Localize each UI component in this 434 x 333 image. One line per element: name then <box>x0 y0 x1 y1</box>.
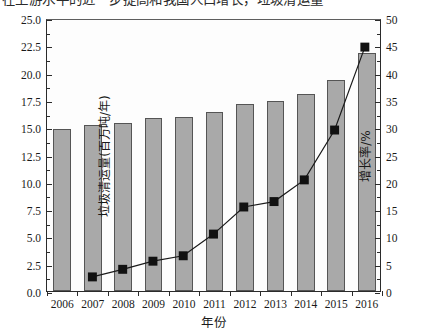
x-tick-mark <box>260 291 261 296</box>
x-tick-mark <box>47 291 48 296</box>
x-tick-label-2016: 2016 <box>355 298 378 310</box>
marker-2008 <box>118 265 127 274</box>
y-right-tick-mark <box>375 20 380 21</box>
y-left-tick-mark <box>47 20 52 21</box>
y-left-tick-mark <box>47 75 52 76</box>
y-right-tick-mark <box>375 75 380 76</box>
y-right-tick-label-30: 30 <box>380 123 426 135</box>
y-right-tick-label-40: 40 <box>380 69 426 81</box>
y-right-tick-mark <box>375 102 380 103</box>
y-right-minor-tick <box>377 88 380 89</box>
y-left-minor-tick <box>47 225 50 226</box>
y-left-tick-label-17.5: 17.5 <box>0 96 47 108</box>
y-right-minor-tick <box>377 61 380 62</box>
y-left-minor-tick <box>47 61 50 62</box>
x-tick-label-2012: 2012 <box>233 298 256 310</box>
x-tick-label-2006: 2006 <box>51 298 74 310</box>
y-right-tick-mark <box>375 238 380 239</box>
marker-2009 <box>148 257 157 266</box>
y-right-minor-tick <box>377 252 380 253</box>
y-left-tick-label-15.0: 15.0 <box>0 123 47 135</box>
x-tick-mark <box>352 291 353 296</box>
y-left-tick-mark <box>47 129 52 130</box>
y-left-tick-mark <box>47 184 52 185</box>
y-left-tick-mark <box>47 157 52 158</box>
x-tick-mark <box>77 291 78 296</box>
x-tick-mark <box>291 291 292 296</box>
y-right-minor-tick <box>377 225 380 226</box>
x-tick-mark <box>382 291 383 296</box>
x-tick-mark <box>199 291 200 296</box>
y-right-tick-mark <box>375 47 380 48</box>
y-left-minor-tick <box>47 252 50 253</box>
chart-figure: 垃圾清运量(百万吨/年) 增长率/% 0.02.55.07.510.012.51… <box>0 0 434 333</box>
y-right-minor-tick <box>377 143 380 144</box>
y-left-minor-tick <box>47 88 50 89</box>
y-axis-right-title: 增长率/% <box>356 130 373 181</box>
y-left-tick-mark <box>47 211 52 212</box>
y-right-tick-mark <box>375 184 380 185</box>
y-left-minor-tick <box>47 197 50 198</box>
y-left-tick-mark <box>47 266 52 267</box>
y-right-tick-mark <box>375 266 380 267</box>
x-tick-mark <box>169 291 170 296</box>
marker-2011 <box>209 230 218 239</box>
y-right-tick-label-35: 35 <box>380 96 426 108</box>
marker-2010 <box>179 251 188 260</box>
y-right-tick-mark <box>375 157 380 158</box>
y-right-minor-tick <box>377 116 380 117</box>
marker-2012 <box>239 203 248 212</box>
plot-area: 垃圾清运量(百万吨/年) 增长率/% 0.02.55.07.510.012.51… <box>46 19 381 292</box>
y-left-tick-mark <box>47 238 52 239</box>
y-right-tick-label-20: 20 <box>380 178 426 190</box>
x-tick-label-2015: 2015 <box>325 298 348 310</box>
y-left-tick-label-25.0: 25.0 <box>0 14 47 26</box>
y-left-tick-label-2.5: 2.5 <box>0 260 47 272</box>
y-right-minor-tick <box>377 170 380 171</box>
x-tick-label-2013: 2013 <box>264 298 287 310</box>
y-left-tick-label-7.5: 7.5 <box>0 205 47 217</box>
y-right-minor-tick <box>377 34 380 35</box>
y-right-tick-label-45: 45 <box>380 41 426 53</box>
y-right-tick-mark <box>375 211 380 212</box>
x-tick-label-2010: 2010 <box>173 298 196 310</box>
x-tick-label-2011: 2011 <box>203 298 226 310</box>
y-left-tick-mark <box>47 47 52 48</box>
x-tick-label-2014: 2014 <box>294 298 317 310</box>
y-right-tick-label-25: 25 <box>380 151 426 163</box>
y-left-minor-tick <box>47 34 50 35</box>
y-right-tick-label-50: 50 <box>380 14 426 26</box>
y-right-tick-label-0: 0 <box>380 287 426 299</box>
y-left-tick-label-5.0: 5.0 <box>0 232 47 244</box>
y-right-minor-tick <box>377 279 380 280</box>
marker-2014 <box>300 175 309 184</box>
marker-2015 <box>330 126 339 135</box>
x-tick-mark <box>230 291 231 296</box>
x-axis-title: 年份 <box>46 312 381 331</box>
x-tick-mark <box>108 291 109 296</box>
y-axis-left-title: 垃圾清运量(百万吨/年) <box>95 95 112 216</box>
y-left-minor-tick <box>47 143 50 144</box>
y-right-tick-label-10: 10 <box>380 232 426 244</box>
y-right-tick-label-5: 5 <box>380 260 426 272</box>
marker-2016 <box>360 43 369 52</box>
y-left-tick-label-22.5: 22.5 <box>0 41 47 53</box>
y-left-minor-tick <box>47 170 50 171</box>
y-left-minor-tick <box>47 279 50 280</box>
marker-2013 <box>270 197 279 206</box>
x-tick-label-2008: 2008 <box>112 298 135 310</box>
y-right-tick-mark <box>375 129 380 130</box>
x-tick-label-2007: 2007 <box>81 298 104 310</box>
y-left-minor-tick <box>47 116 50 117</box>
y-left-tick-label-12.5: 12.5 <box>0 151 47 163</box>
y-right-minor-tick <box>377 197 380 198</box>
x-tick-mark <box>138 291 139 296</box>
marker-2007 <box>88 272 97 281</box>
y-left-tick-label-0.0: 0.0 <box>0 287 47 299</box>
y-left-tick-label-10.0: 10.0 <box>0 178 47 190</box>
x-tick-mark <box>321 291 322 296</box>
x-tick-label-2009: 2009 <box>142 298 165 310</box>
y-left-tick-mark <box>47 102 52 103</box>
growth-rate-polyline <box>92 47 364 277</box>
y-right-tick-label-15: 15 <box>380 205 426 217</box>
